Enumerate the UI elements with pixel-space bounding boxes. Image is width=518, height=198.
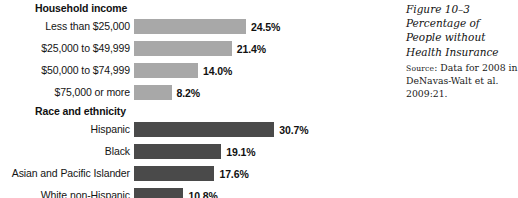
bar: [134, 122, 274, 137]
bar-row: White non-Hispanic10.8%: [0, 186, 400, 198]
figure-container: Household income Less than $25,00024.5%$…: [0, 0, 518, 198]
caption-title-text: Percentage of People without Health Insu…: [406, 17, 499, 57]
bar-track: 19.1%: [134, 144, 400, 159]
bar-category-label: $50,000 to $74,999: [0, 64, 130, 76]
bar: [134, 85, 172, 100]
bar-value-label: 17.6%: [219, 168, 248, 180]
bar-category-label: Asian and Pacific Islander: [0, 167, 130, 179]
bar-category-label: White non-Hispanic: [0, 189, 130, 198]
bar-rows-household-income: Less than $25,00024.5%$25,000 to $49,999…: [0, 17, 400, 105]
bar-value-label: 19.1%: [226, 146, 255, 158]
caption-source: Source: Data for 2008 in DeNavas-Walt et…: [406, 62, 518, 101]
source-label: Source: [406, 64, 434, 73]
bar-rows-race-ethnicity: Hispanic30.7%Black19.1%Asian and Pacific…: [0, 120, 400, 198]
chart-title-household-income: Household income: [35, 2, 127, 14]
bar: [134, 188, 183, 198]
bar-row: Asian and Pacific Islander17.6%: [0, 164, 400, 186]
bar-row: $50,000 to $74,99914.0%: [0, 61, 400, 83]
bar-value-label: 21.4%: [237, 43, 266, 55]
figure-caption: Figure 10–3 Percentage of People without…: [406, 2, 518, 198]
bar-value-label: 24.5%: [251, 21, 280, 33]
bar: [134, 41, 232, 56]
bar-track: 21.4%: [134, 41, 400, 56]
bar: [134, 63, 198, 78]
bar-category-label: Black: [0, 145, 130, 157]
bar-value-label: 14.0%: [203, 65, 232, 77]
bar-row: $75,000 or more8.2%: [0, 83, 400, 105]
bar-track: 14.0%: [134, 63, 400, 78]
chart-title-race-ethnicity: Race and ethnicity: [35, 105, 126, 117]
bar-category-label: $75,000 or more: [0, 86, 130, 98]
bar-row: Less than $25,00024.5%: [0, 17, 400, 39]
bar-row: Black19.1%: [0, 142, 400, 164]
charts-area: Household income Less than $25,00024.5%$…: [0, 0, 400, 198]
bar-track: 24.5%: [134, 19, 400, 34]
bar-track: 17.6%: [134, 166, 400, 181]
caption-title-block: Figure 10–3 Percentage of People without…: [406, 2, 518, 59]
bar-category-label: $25,000 to $49,999: [0, 42, 130, 54]
bar-track: 10.8%: [134, 188, 400, 198]
bar-track: 30.7%: [134, 122, 400, 137]
bar: [134, 166, 214, 181]
bar: [134, 19, 246, 34]
bar-category-label: Hispanic: [0, 123, 130, 135]
bar-value-label: 30.7%: [279, 124, 308, 136]
bar-category-label: Less than $25,000: [0, 20, 130, 32]
figure-number: Figure 10–3: [406, 2, 518, 16]
bar-value-label: 8.2%: [177, 87, 201, 99]
bar-track: 8.2%: [134, 85, 400, 100]
bar-row: $25,000 to $49,99921.4%: [0, 39, 400, 61]
bar: [134, 144, 221, 159]
bar-value-label: 10.8%: [188, 190, 217, 198]
bar-row: Hispanic30.7%: [0, 120, 400, 142]
